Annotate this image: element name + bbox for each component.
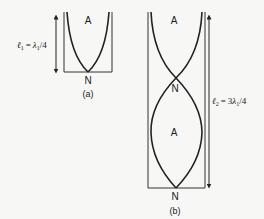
- length-label-a: ℓ1=λ1/4: [17, 40, 47, 51]
- node-mid-label-b: N: [171, 83, 178, 94]
- standing-wave-diagram: A N (a) ℓ1=λ1/4 A N A N (b) ℓ2=3λ1/4: [0, 0, 264, 219]
- node-bottom-label-b: N: [171, 191, 178, 202]
- panel-a: A N (a) ℓ1=λ1/4: [17, 12, 112, 99]
- tube-b-outline: [148, 12, 205, 188]
- panel-b: A N A N (b) ℓ2=3λ1/4: [148, 12, 247, 216]
- antinode-mid-label-b: A: [171, 127, 178, 138]
- length-label-b: ℓ2=3λ1/4: [212, 96, 247, 107]
- wave-b-upper-right: [176, 12, 202, 78]
- node-label-a: N: [84, 75, 91, 86]
- antinode-label-a: A: [85, 15, 92, 26]
- antinode-top-label-b: A: [171, 15, 178, 26]
- caption-a: (a): [83, 89, 94, 99]
- caption-b: (b): [170, 206, 181, 216]
- wave-b-lower-right: [176, 78, 202, 188]
